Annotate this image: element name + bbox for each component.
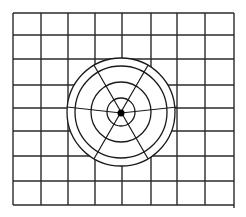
center-dot	[118, 110, 125, 117]
polar-grid	[67, 58, 177, 166]
diagram-canvas	[0, 0, 246, 217]
polar-grid-diagram	[0, 0, 246, 217]
